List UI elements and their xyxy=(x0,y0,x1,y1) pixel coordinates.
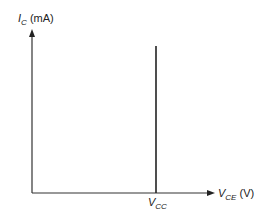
vcc-label: VCC xyxy=(148,196,167,211)
diagram-canvas: IC (mA) VCE (V) VCC xyxy=(0,0,274,212)
y-axis-label: IC (mA) xyxy=(18,12,54,27)
y-axis-arrow-icon xyxy=(29,29,35,37)
x-axis-arrow-icon xyxy=(207,190,215,196)
x-axis-label: VCE (V) xyxy=(218,187,254,202)
